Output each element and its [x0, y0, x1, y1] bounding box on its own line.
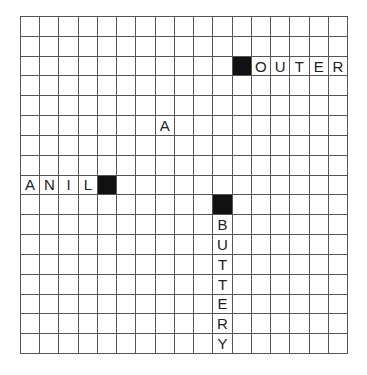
grid-cell[interactable] — [194, 76, 213, 96]
grid-cell[interactable] — [59, 156, 78, 176]
grid-cell[interactable] — [194, 136, 213, 156]
grid-cell[interactable] — [194, 37, 213, 57]
grid-cell[interactable] — [79, 235, 98, 255]
grid-cell[interactable] — [40, 334, 59, 354]
grid-cell[interactable] — [310, 176, 329, 196]
grid-cell[interactable] — [233, 76, 252, 96]
grid-cell[interactable] — [290, 176, 309, 196]
grid-cell[interactable] — [310, 76, 329, 96]
grid-cell[interactable] — [252, 334, 271, 354]
grid-cell[interactable] — [156, 156, 175, 176]
grid-cell[interactable] — [79, 17, 98, 37]
grid-cell[interactable] — [79, 275, 98, 295]
grid-cell[interactable] — [98, 17, 117, 37]
grid-cell[interactable] — [290, 314, 309, 334]
grid-cell[interactable] — [290, 156, 309, 176]
grid-cell[interactable] — [233, 275, 252, 295]
grid-cell[interactable] — [271, 76, 290, 96]
grid-cell[interactable] — [329, 116, 348, 136]
grid-cell[interactable] — [59, 334, 78, 354]
letter-cell[interactable]: I — [59, 176, 78, 196]
grid-cell[interactable] — [40, 156, 59, 176]
grid-cell[interactable] — [329, 176, 348, 196]
grid-cell[interactable] — [40, 235, 59, 255]
grid-cell[interactable] — [175, 195, 194, 215]
grid-cell[interactable] — [310, 334, 329, 354]
grid-cell[interactable] — [233, 334, 252, 354]
grid-cell[interactable] — [271, 96, 290, 116]
grid-cell[interactable] — [290, 76, 309, 96]
grid-cell[interactable] — [59, 136, 78, 156]
grid-cell[interactable] — [156, 195, 175, 215]
grid-cell[interactable] — [252, 176, 271, 196]
grid-cell[interactable] — [252, 195, 271, 215]
grid-cell[interactable] — [21, 255, 40, 275]
grid-cell[interactable] — [136, 334, 155, 354]
grid-cell[interactable] — [290, 275, 309, 295]
grid-cell[interactable] — [175, 17, 194, 37]
grid-cell[interactable] — [40, 314, 59, 334]
grid-cell[interactable] — [329, 96, 348, 116]
grid-cell[interactable] — [21, 314, 40, 334]
grid-cell[interactable] — [21, 17, 40, 37]
grid-cell[interactable] — [98, 136, 117, 156]
grid-cell[interactable] — [252, 76, 271, 96]
grid-cell[interactable] — [194, 116, 213, 136]
grid-cell[interactable] — [290, 295, 309, 315]
grid-cell[interactable] — [329, 295, 348, 315]
grid-cell[interactable] — [290, 334, 309, 354]
grid-cell[interactable] — [59, 215, 78, 235]
grid-cell[interactable] — [98, 195, 117, 215]
grid-cell[interactable] — [271, 17, 290, 37]
grid-cell[interactable] — [136, 96, 155, 116]
grid-cell[interactable] — [21, 57, 40, 77]
grid-cell[interactable] — [252, 235, 271, 255]
grid-cell[interactable] — [117, 76, 136, 96]
grid-cell[interactable] — [156, 96, 175, 116]
grid-cell[interactable] — [233, 195, 252, 215]
grid-cell[interactable] — [194, 295, 213, 315]
grid-cell[interactable] — [175, 156, 194, 176]
letter-cell[interactable]: B — [213, 215, 232, 235]
grid-cell[interactable] — [271, 295, 290, 315]
grid-cell[interactable] — [79, 116, 98, 136]
grid-cell[interactable] — [271, 334, 290, 354]
grid-cell[interactable] — [40, 76, 59, 96]
grid-cell[interactable] — [233, 116, 252, 136]
grid-cell[interactable] — [329, 235, 348, 255]
grid-cell[interactable] — [40, 96, 59, 116]
letter-cell[interactable]: E — [310, 57, 329, 77]
letter-cell[interactable]: A — [21, 176, 40, 196]
grid-cell[interactable] — [213, 17, 232, 37]
grid-cell[interactable] — [194, 17, 213, 37]
grid-cell[interactable] — [329, 334, 348, 354]
grid-cell[interactable] — [310, 37, 329, 57]
letter-cell[interactable]: O — [252, 57, 271, 77]
grid-cell[interactable] — [290, 17, 309, 37]
grid-cell[interactable] — [156, 136, 175, 156]
grid-cell[interactable] — [156, 314, 175, 334]
grid-cell[interactable] — [329, 17, 348, 37]
grid-cell[interactable] — [79, 37, 98, 57]
grid-cell[interactable] — [79, 96, 98, 116]
grid-cell[interactable] — [156, 275, 175, 295]
letter-cell[interactable]: R — [329, 57, 348, 77]
grid-cell[interactable] — [79, 215, 98, 235]
grid-cell[interactable] — [252, 96, 271, 116]
grid-cell[interactable] — [21, 96, 40, 116]
grid-cell[interactable] — [156, 57, 175, 77]
grid-cell[interactable] — [136, 255, 155, 275]
grid-cell[interactable] — [40, 295, 59, 315]
grid-cell[interactable] — [252, 37, 271, 57]
grid-cell[interactable] — [156, 295, 175, 315]
grid-cell[interactable] — [98, 76, 117, 96]
grid-cell[interactable] — [98, 156, 117, 176]
grid-cell[interactable] — [329, 156, 348, 176]
letter-cell[interactable]: Y — [213, 334, 232, 354]
grid-cell[interactable] — [310, 295, 329, 315]
grid-cell[interactable] — [136, 275, 155, 295]
grid-cell[interactable] — [175, 57, 194, 77]
grid-cell[interactable] — [79, 136, 98, 156]
grid-cell[interactable] — [156, 215, 175, 235]
grid-cell[interactable] — [59, 255, 78, 275]
